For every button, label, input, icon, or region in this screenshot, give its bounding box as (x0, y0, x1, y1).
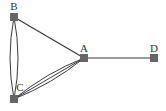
graph-edges (0, 0, 166, 111)
edge-a-c-2 (14, 58, 84, 99)
node-label-c: C (16, 82, 23, 93)
graph-diagram: A B C D (0, 0, 166, 111)
edge-b-a (14, 17, 84, 58)
node-label-a: A (80, 43, 88, 54)
node-a (80, 54, 88, 62)
node-b (10, 13, 18, 21)
edge-b-c-1 (10, 17, 14, 99)
node-label-d: D (150, 43, 158, 54)
node-label-b: B (10, 1, 17, 12)
node-c (10, 95, 18, 103)
node-d (150, 54, 158, 62)
